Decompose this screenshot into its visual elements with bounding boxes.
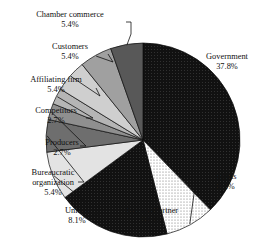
label-name: Foreign Partner — [110, 206, 194, 216]
label-name: Producers — [22, 138, 102, 148]
label-name: Banks — [200, 172, 252, 182]
label-pct: 2.7% — [22, 148, 102, 158]
label-pct: 2.7% — [14, 116, 98, 126]
label-name-line1: Bureaucratic — [4, 168, 102, 178]
label-pct: 8.1% — [46, 216, 108, 226]
label-name-line2: organization — [4, 178, 102, 188]
slice-label-customers: Customers 5.4% — [32, 42, 108, 62]
label-name: Government — [196, 52, 258, 62]
pie-chart: Chamber commerce 5.4% Customers 5.4% Aff… — [0, 0, 260, 250]
label-pct: 8.2% — [200, 182, 252, 192]
slice-label-bureaucratic-organization: Bureaucratic organization 5.4% — [4, 168, 102, 198]
leader-line — [126, 22, 131, 45]
slice-label-foreign-partner: Foreign Partner 18.9% — [110, 206, 194, 226]
slice-label-chamber-commerce: Chamber commerce 5.4% — [14, 10, 126, 30]
slice-label-producers: Producers 2.7% — [22, 138, 102, 158]
label-name: Affiliating firm — [10, 75, 102, 85]
label-name: Chamber commerce — [14, 10, 126, 20]
label-pct: 18.9% — [110, 216, 194, 226]
label-pct: 5.4% — [10, 85, 102, 95]
label-pct: 5.4% — [32, 52, 108, 62]
slice-label-competitors: Competitors 2.7% — [14, 106, 98, 126]
slice-label-government: Government 37.8% — [196, 52, 258, 72]
label-pct: 5.4% — [14, 20, 126, 30]
label-pct: 37.8% — [196, 62, 258, 72]
label-name: Competitors — [14, 106, 98, 116]
label-name: Unions — [46, 206, 108, 216]
slice-label-affiliating-firm: Affiliating firm 5.4% — [10, 75, 102, 95]
label-name: Customers — [32, 42, 108, 52]
slice-label-banks: Banks 8.2% — [200, 172, 252, 192]
label-pct: 5.4% — [4, 188, 102, 198]
slice-label-unions: Unions 8.1% — [46, 206, 108, 226]
